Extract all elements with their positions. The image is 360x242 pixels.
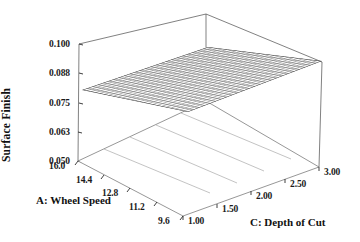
x-tick-11.2 (154, 202, 157, 206)
x-tick-label-1: 14.4 (76, 175, 92, 185)
z-axis-title: Surface Finish (0, 88, 12, 162)
z-tick-0.100 (79, 44, 83, 45)
surface-plot-figure: Surface Finish 0.100 0.088 0.075 0.063 0… (0, 0, 360, 242)
x-tick-label-0: 16.0 (49, 161, 65, 171)
y-tick-label-4: 3.00 (324, 167, 340, 177)
box-edge-top-left (79, 14, 206, 44)
z-tick-label-0: 0.100 (36, 39, 70, 49)
x-axis-title: A: Wheel Speed (36, 194, 111, 206)
y-tick-label-2: 2.00 (256, 191, 272, 201)
z-tick-label-3: 0.063 (36, 127, 70, 137)
box-edge-right-vertical (319, 62, 322, 167)
x-tick-12.8 (127, 188, 130, 192)
floor-plane (78, 101, 319, 216)
z-tick-0.075 (79, 103, 83, 104)
z-tick-0.063 (78, 132, 82, 133)
y-tick-label-1: 1.50 (222, 204, 238, 214)
y-tick-label-0: 1.00 (188, 216, 204, 226)
x-tick-14.4 (101, 175, 104, 179)
x-tick-label-4: 9.6 (158, 216, 170, 226)
z-tick-0.088 (79, 73, 83, 74)
z-tick-label-2: 0.075 (36, 98, 70, 108)
z-axis-line (78, 44, 79, 161)
y-tick-label-3: 2.50 (290, 179, 306, 189)
response-surface-mesh (82, 47, 322, 112)
x-tick-16.0 (75, 161, 78, 165)
y-axis-title: C: Depth of Cut (250, 216, 325, 228)
x-tick-label-3: 11.2 (129, 202, 145, 212)
z-tick-label-1: 0.088 (36, 68, 70, 78)
